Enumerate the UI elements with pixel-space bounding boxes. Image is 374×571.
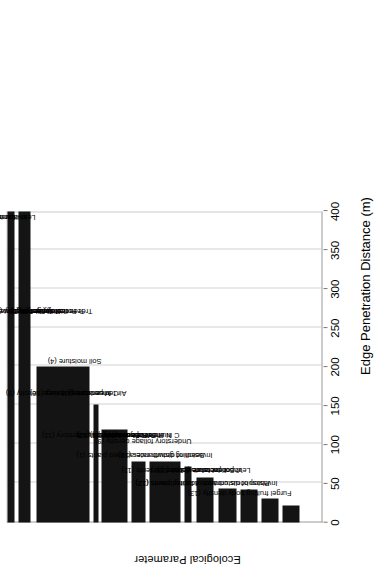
axis-tick-label: 300 (328, 279, 340, 298)
bar (261, 498, 278, 522)
category-axis-title: Ecological Parameter (0, 551, 374, 569)
axis-tick-mark (323, 327, 327, 328)
axis-tick-label: 50 (328, 477, 340, 490)
bar (36, 367, 89, 523)
bar (282, 505, 299, 522)
bar-chart-figure: Ecological Parameter Invasion of disturb… (0, 0, 374, 571)
bar-series (6, 211, 322, 522)
axis-tick-mark (323, 443, 327, 444)
bar (93, 404, 98, 522)
bar (101, 429, 127, 522)
axis-tick-mark (323, 366, 327, 367)
bar (149, 461, 180, 522)
bar (18, 211, 30, 522)
axis-tick-mark (323, 404, 327, 405)
bar (240, 489, 257, 522)
bar (184, 466, 191, 522)
axis-tick-label: 0 (328, 519, 340, 525)
axis-tick-label: 350 (328, 240, 340, 259)
bar (131, 461, 145, 522)
axis-tick-mark (323, 249, 327, 250)
axis-tick-mark (323, 521, 327, 522)
bar (196, 477, 213, 522)
axis-tick-label: 200 (328, 357, 340, 376)
chart-canvas: Ecological Parameter Invasion of disturb… (0, 0, 374, 571)
axis-tick-label: 150 (328, 396, 340, 415)
axis-tick-mark (323, 482, 327, 483)
axis-tick-mark (323, 210, 327, 211)
bar (7, 211, 14, 522)
axis-tick-mark (323, 288, 327, 289)
axis-tick-label: 400 (328, 201, 340, 220)
value-axis-title: Edge Penetration Distance (m) (357, 0, 372, 571)
bar (218, 488, 236, 522)
axis-tick-label: 250 (328, 318, 340, 337)
axis-tick-label: 100 (328, 435, 340, 454)
